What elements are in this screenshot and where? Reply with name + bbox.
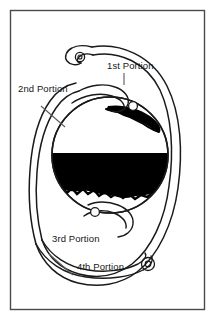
label-4th-portion: 4th Portion [77, 261, 124, 272]
label-2nd-portion: 2nd Portion [18, 83, 68, 94]
label-1st-portion: 1st Portion [107, 60, 154, 71]
label-3rd-portion: 3rd Portion [52, 233, 100, 244]
figure-root: 1st Portion 2nd Portion 3rd Portion 4th … [0, 0, 215, 320]
marker-lower-left-icon [91, 208, 100, 217]
duodenum-diagram: 1st Portion 2nd Portion 3rd Portion 4th … [0, 0, 215, 320]
marker-upper-right-icon [129, 102, 138, 111]
